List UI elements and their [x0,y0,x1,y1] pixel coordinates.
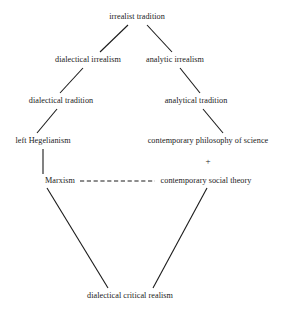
diagram-edges-layer [0,0,292,311]
edge-irrealist-to-analytic-irrealism [147,25,172,52]
node-marxism: Marxism [45,176,75,186]
edge-contemporary-social-theory-to-dialectical-critical-realism [153,188,207,288]
node-analytic-irrealism: analytic irrealism [146,55,204,65]
edge-irrealist-to-dialectical-irrealism [100,25,128,52]
node-contemporary-social-theory: contemporary social theory [161,176,252,186]
edge-marxism-to-dialectical-critical-realism [47,188,108,288]
edge-analytical-tradition-to-contemporary-philosophy [203,109,223,133]
plus-sign-icon: + [205,157,210,166]
irrealist-tradition-diagram: irrealist traditiondialectical irrealism… [0,0,292,311]
node-irrealist-tradition: irrealist tradition [109,12,165,22]
edge-dialectical-tradition-to-left-hegelianism [37,109,57,133]
edge-analytic-irrealism-to-analytical-tradition [180,68,200,93]
node-dialectical-irrealism: dialectical irrealism [55,55,121,65]
node-dialectical-critical-realism: dialectical critical realism [87,291,173,301]
node-contemporary-philosophy-of-science: contemporary philosophy of science [148,136,269,146]
edge-dialectical-irrealism-to-tradition [60,68,83,93]
node-dialectical-tradition: dialectical tradition [29,96,93,106]
node-left-hegelianism: left Hegelianism [15,136,70,146]
node-analytical-tradition: analytical tradition [165,96,228,106]
